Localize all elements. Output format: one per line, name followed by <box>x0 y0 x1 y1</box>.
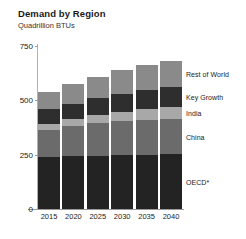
bar-segment-china[interactable] <box>87 123 109 155</box>
bar-segment-india[interactable] <box>111 112 133 121</box>
bar-segment-key-growth[interactable] <box>136 90 158 110</box>
bar-segment-oecd[interactable] <box>38 157 60 209</box>
bar-segment-china[interactable] <box>160 119 182 154</box>
legend-label-oecd: OECD* <box>186 178 209 185</box>
bar-2015[interactable] <box>38 0 60 209</box>
x-axis-tick-label: 2025 <box>85 212 111 221</box>
legend-label-key-growth: Key Growth <box>186 94 223 101</box>
bar-segment-india[interactable] <box>160 107 182 118</box>
bar-segment-key-growth[interactable] <box>160 87 182 108</box>
bar-2035[interactable] <box>136 0 158 209</box>
bar-segment-oecd[interactable] <box>87 156 109 209</box>
bar-segment-india[interactable] <box>136 109 158 119</box>
bar-segment-rest-of-world[interactable] <box>160 61 182 87</box>
bar-segment-key-growth[interactable] <box>38 109 60 123</box>
bar-segment-oecd[interactable] <box>160 154 182 209</box>
bar-segment-key-growth[interactable] <box>87 98 109 115</box>
bar-segment-rest-of-world[interactable] <box>111 70 133 93</box>
bar-segment-china[interactable] <box>62 126 84 156</box>
chart-figure: Demand by Region Quadrillion BTUs 025050… <box>0 0 246 239</box>
bar-segment-oecd[interactable] <box>111 155 133 209</box>
bar-segment-rest-of-world[interactable] <box>87 77 109 98</box>
bar-segment-china[interactable] <box>111 121 133 155</box>
bar-2020[interactable] <box>62 0 84 209</box>
legend-label-china: China <box>186 133 205 140</box>
x-axis-line <box>28 209 184 210</box>
legend-label-rest-of-world: Rest of World <box>186 70 229 77</box>
y-axis-tick-label: 0 <box>0 205 33 214</box>
x-axis-tick-label: 2035 <box>134 212 160 221</box>
bar-segment-oecd[interactable] <box>62 156 84 209</box>
bar-segment-india[interactable] <box>62 119 84 126</box>
bar-2030[interactable] <box>111 0 133 209</box>
bar-2025[interactable] <box>87 0 109 209</box>
bar-segment-rest-of-world[interactable] <box>136 65 158 90</box>
x-axis-tick-label: 2015 <box>36 212 62 221</box>
x-axis-tick-label: 2040 <box>158 212 184 221</box>
bar-2040[interactable] <box>160 0 182 209</box>
y-axis-tick-label: 500 <box>0 96 33 105</box>
bar-segment-key-growth[interactable] <box>111 94 133 112</box>
bar-segment-key-growth[interactable] <box>62 104 84 120</box>
x-axis-tick-label: 2030 <box>109 212 135 221</box>
bar-segment-oecd[interactable] <box>136 155 158 209</box>
legend-label-india: India <box>186 110 201 117</box>
bar-segment-china[interactable] <box>38 130 60 157</box>
bar-segment-rest-of-world[interactable] <box>38 92 60 109</box>
bar-segment-china[interactable] <box>136 120 158 155</box>
bar-segment-india[interactable] <box>87 115 109 123</box>
x-axis-tick-label: 2020 <box>60 212 86 221</box>
y-axis-tick-label: 750 <box>0 42 33 51</box>
y-axis-tick-label: 250 <box>0 150 33 159</box>
bar-segment-rest-of-world[interactable] <box>62 84 84 103</box>
